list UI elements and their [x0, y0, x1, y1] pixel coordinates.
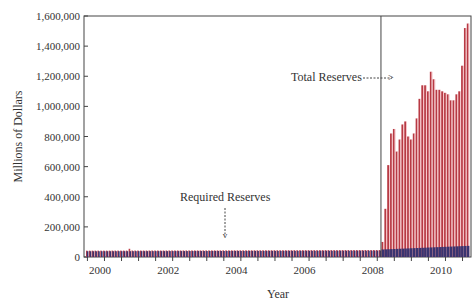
required-bar	[272, 251, 274, 257]
bar-highlight	[420, 99, 421, 257]
bar-highlight	[437, 90, 438, 257]
required-bar	[444, 247, 447, 257]
required-bar	[166, 251, 168, 257]
required-bar	[306, 251, 308, 257]
total-bar	[430, 72, 432, 257]
required-bar	[146, 251, 148, 257]
y-tick-label: 400,000	[44, 191, 80, 203]
required-bar	[189, 251, 191, 257]
required-bar	[218, 251, 220, 257]
total-bar	[396, 152, 398, 257]
required-bar	[326, 251, 328, 257]
required-bar	[308, 251, 310, 257]
required-bar	[121, 251, 123, 257]
required-bar	[387, 249, 390, 257]
required-bar	[104, 251, 106, 257]
required-bar	[450, 247, 453, 257]
total-bar	[453, 100, 455, 257]
required-bar	[300, 251, 302, 257]
required-bar	[240, 251, 242, 257]
total-bar	[444, 93, 446, 257]
required-bar	[226, 251, 228, 257]
required-bar	[371, 251, 373, 257]
bar-highlight	[415, 133, 416, 257]
required-bar	[223, 251, 225, 257]
required-bar	[203, 251, 205, 257]
required-bar	[314, 251, 316, 257]
required-bar	[101, 251, 103, 257]
bar-highlight	[403, 124, 404, 257]
required-bar	[441, 247, 444, 257]
total-bar	[427, 91, 429, 257]
required-bar	[87, 251, 89, 257]
y-tick-label: 200,000	[44, 221, 80, 233]
required-bar	[438, 247, 441, 257]
required-bar	[331, 251, 333, 257]
total-bar	[464, 28, 466, 257]
required-bar	[274, 251, 276, 257]
required-bar	[172, 251, 174, 257]
y-tick-label: 1,200,000	[36, 70, 81, 82]
required-bar	[357, 251, 359, 257]
required-bar	[254, 251, 256, 257]
required-bar	[436, 247, 439, 257]
required-bar	[138, 251, 140, 257]
bar-highlight	[429, 91, 430, 257]
required-bar	[124, 251, 126, 257]
bar-highlight	[449, 94, 450, 257]
bar-highlight	[412, 140, 413, 257]
bar-highlight	[460, 91, 461, 257]
total-bar	[455, 94, 457, 257]
required-bar	[158, 251, 160, 257]
total-bar	[399, 140, 401, 257]
x-axis-label: Year	[267, 287, 289, 301]
required-bar	[192, 251, 194, 257]
required-bar	[90, 251, 92, 257]
required-bar	[368, 251, 370, 257]
bar-highlight	[466, 28, 467, 257]
bar-highlight	[463, 66, 464, 257]
required-bar	[277, 251, 279, 257]
required-bar	[407, 248, 410, 257]
y-tick-label: 1,600,000	[36, 10, 81, 22]
bar-highlight	[423, 85, 424, 257]
chart: 0200,000400,000600,000800,0001,000,0001,…	[0, 0, 476, 305]
required-bar	[95, 251, 97, 257]
required-bar	[410, 248, 413, 257]
required-bar	[354, 251, 356, 257]
required-bar	[209, 251, 211, 257]
required-bar	[164, 251, 166, 257]
required-bar	[155, 251, 157, 257]
total-bar	[387, 165, 389, 257]
bar-highlight	[409, 137, 410, 258]
required-bar	[152, 251, 154, 257]
required-bar	[396, 249, 399, 257]
y-tick-label: 1,000,000	[36, 100, 81, 112]
required-bar	[175, 251, 177, 257]
required-bar	[98, 251, 100, 257]
required-bar	[181, 251, 183, 257]
required-bar	[390, 249, 393, 257]
total-bar	[407, 137, 409, 258]
required-bar	[393, 249, 396, 257]
required-bar	[112, 251, 114, 257]
x-tick-label: 2000	[89, 264, 112, 276]
required-bar	[467, 246, 470, 257]
bar-highlight	[446, 93, 447, 257]
required-bar	[360, 251, 362, 257]
total-bar	[418, 99, 420, 257]
required-bar	[317, 251, 319, 257]
y-tick-label: 1,400,000	[36, 40, 81, 52]
required-bar	[461, 246, 464, 257]
required-bar	[377, 251, 379, 257]
required-bar	[362, 251, 364, 257]
required-bar	[320, 251, 322, 257]
x-tick-label: 2004	[225, 264, 248, 276]
bar-highlight	[395, 129, 396, 257]
required-bar	[260, 251, 262, 257]
required-bar	[345, 251, 347, 257]
required-bar	[283, 251, 285, 257]
bar-highlight	[432, 72, 433, 257]
required-bar	[328, 251, 330, 257]
required-bar	[132, 251, 134, 257]
